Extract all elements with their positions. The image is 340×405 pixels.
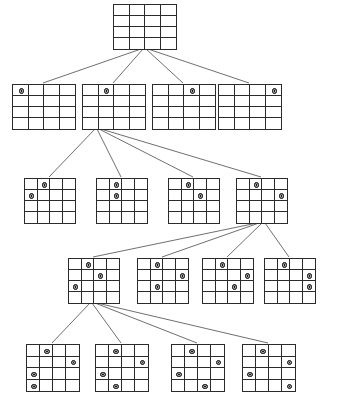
board-cell-r2-c3[interactable] [275,201,288,212]
board-cell-r2-c2[interactable] [269,368,282,380]
board-cell-r0-c1[interactable] [250,179,263,190]
board-cell-r3-c3[interactable] [275,212,288,223]
board-cell-r2-c3[interactable] [130,107,146,118]
board-cell-r2-c0[interactable] [83,107,99,118]
board-cell-r1-c3[interactable] [207,190,220,201]
board-cell-r1-c0[interactable] [69,270,82,281]
board-cell-r1-c2[interactable] [163,270,176,281]
board-cell-r2-c1[interactable] [130,27,146,38]
board-cell-r0-c3[interactable] [66,345,79,357]
board-cell-r2-c0[interactable] [219,107,235,118]
board-cell-r0-c0[interactable] [97,179,110,190]
board-cell-r0-c1[interactable] [235,85,251,96]
board-cell-r2-c3[interactable] [107,281,120,292]
board-cell-r0-c2[interactable] [184,85,200,96]
board-cell-r1-c3[interactable] [63,190,76,201]
board-cell-r2-c2[interactable] [114,107,130,118]
board-cell-r3-c3[interactable] [161,38,177,49]
board-cell-r1-c0[interactable] [96,357,109,369]
board-cell-r3-c2[interactable] [122,380,135,392]
board-cell-r0-c0[interactable] [153,85,169,96]
board-cell-r2-c1[interactable] [29,107,45,118]
board-cell-r2-c3[interactable] [63,201,76,212]
board-cell-r1-c3[interactable] [130,96,146,107]
board-cell-r2-c0[interactable] [265,281,278,292]
board-cell-r3-c3[interactable] [200,118,216,129]
node-row2-col2[interactable] [202,258,254,304]
board-cell-r0-c0[interactable] [27,345,40,357]
board-cell-r2-c1[interactable] [216,281,229,292]
board-cell-r1-c2[interactable] [262,190,275,201]
node-row0-col1[interactable] [82,84,146,130]
board-cell-r0-c3[interactable] [275,179,288,190]
board-cell-r1-c2[interactable] [50,190,63,201]
board-cell-r2-c1[interactable] [110,201,123,212]
board-cell-r2-c1[interactable] [250,201,263,212]
board-cell-r2-c2[interactable] [145,27,161,38]
board-cell-r3-c3[interactable] [135,380,148,392]
board-cell-r3-c0[interactable] [219,118,235,129]
board-cell-r1-c1[interactable] [99,96,115,107]
board-cell-r3-c0[interactable] [114,38,130,49]
board-cell-r1-c3[interactable] [161,16,177,27]
board-cell-r2-c1[interactable] [256,368,269,380]
board-cell-r2-c3[interactable] [207,201,220,212]
board-cell-r0-c1[interactable] [256,345,269,357]
board-cell-r2-c1[interactable] [185,368,198,380]
board-cell-r3-c2[interactable] [122,212,135,223]
board-cell-r0-c0[interactable] [203,259,216,270]
board-cell-r0-c1[interactable] [38,179,51,190]
board-cell-r3-c2[interactable] [198,380,211,392]
board-cell-r0-c0[interactable] [169,179,182,190]
board-cell-r3-c0[interactable] [83,118,99,129]
board-cell-r2-c1[interactable] [169,107,185,118]
board-cell-r3-c1[interactable] [38,212,51,223]
board-cell-r3-c3[interactable] [266,118,282,129]
board-cell-r0-c0[interactable] [172,345,185,357]
board-cell-r3-c1[interactable] [235,118,251,129]
board-cell-r0-c3[interactable] [63,179,76,190]
board-cell-r3-c1[interactable] [185,380,198,392]
board-cell-r0-c1[interactable] [109,345,122,357]
board-cell-r3-c2[interactable] [145,38,161,49]
board-cell-r2-c2[interactable] [198,368,211,380]
board-cell-r2-c0[interactable] [114,27,130,38]
board-cell-r0-c1[interactable] [82,259,95,270]
board-cell-r3-c3[interactable] [107,292,120,303]
board-cell-r1-c2[interactable] [145,16,161,27]
board-cell-r3-c1[interactable] [250,212,263,223]
board-cell-r3-c0[interactable] [27,380,40,392]
node-row1-col0[interactable] [24,178,76,224]
board-cell-r0-c1[interactable] [151,259,164,270]
board-cell-r0-c3[interactable] [60,85,76,96]
board-cell-r2-c3[interactable] [241,281,254,292]
board-cell-r1-c1[interactable] [185,357,198,369]
board-cell-r3-c3[interactable] [176,292,189,303]
board-cell-r0-c3[interactable] [266,85,282,96]
board-cell-r3-c0[interactable] [25,212,38,223]
board-cell-r1-c1[interactable] [130,16,146,27]
board-cell-r2-c2[interactable] [250,107,266,118]
board-cell-r3-c0[interactable] [243,380,256,392]
board-cell-r3-c1[interactable] [182,212,195,223]
board-cell-r2-c0[interactable] [237,201,250,212]
board-cell-r0-c3[interactable] [130,85,146,96]
node-row3-col0[interactable] [26,344,80,392]
board-cell-r1-c1[interactable] [169,96,185,107]
board-cell-r1-c2[interactable] [194,190,207,201]
board-cell-r1-c2[interactable] [184,96,200,107]
board-cell-r3-c1[interactable] [99,118,115,129]
board-cell-r2-c2[interactable] [194,201,207,212]
board-cell-r1-c2[interactable] [122,190,135,201]
board-cell-r3-c2[interactable] [114,118,130,129]
board-cell-r3-c3[interactable] [130,118,146,129]
node-row1-col2[interactable] [168,178,220,224]
board-cell-r0-c2[interactable] [114,85,130,96]
board-cell-r2-c2[interactable] [53,368,66,380]
board-cell-r3-c0[interactable] [69,292,82,303]
board-cell-r0-c0[interactable] [83,85,99,96]
board-cell-r3-c1[interactable] [109,380,122,392]
board-cell-r3-c1[interactable] [29,118,45,129]
board-cell-r0-c0[interactable] [13,85,29,96]
board-cell-r1-c1[interactable] [256,357,269,369]
